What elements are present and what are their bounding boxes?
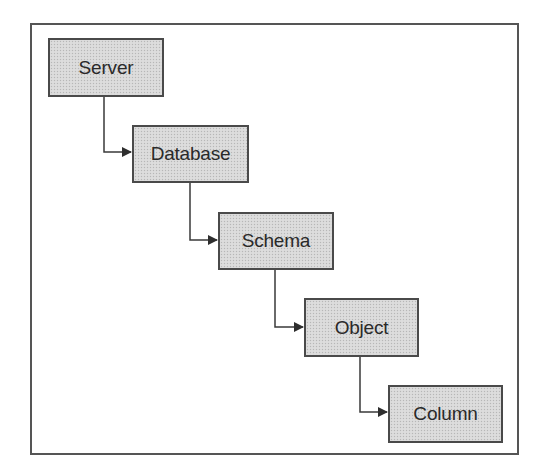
node-label: Column <box>413 403 477 425</box>
node-label: Schema <box>242 230 311 252</box>
node-label: Database <box>151 143 231 165</box>
node-object: Object <box>304 298 419 357</box>
node-column: Column <box>388 385 503 443</box>
node-schema: Schema <box>218 212 334 270</box>
node-database: Database <box>132 125 249 183</box>
node-server: Server <box>48 38 164 97</box>
node-label: Server <box>79 57 134 79</box>
node-label: Object <box>335 317 389 339</box>
